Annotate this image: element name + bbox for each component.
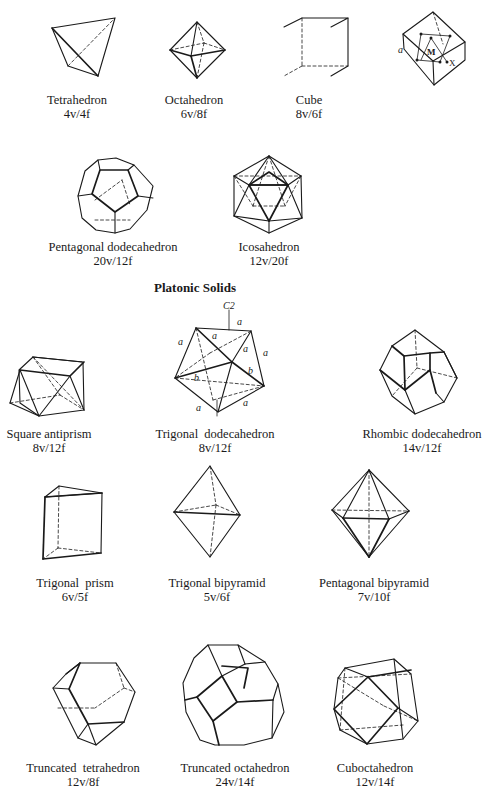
solid-name: Cuboctahedron (337, 761, 413, 775)
solid-counts: 12v/14f (337, 775, 413, 789)
cuboctahedron-drawing (0, 0, 488, 780)
cuboctahedron-label: Cuboctahedron 12v/14f (337, 761, 413, 789)
